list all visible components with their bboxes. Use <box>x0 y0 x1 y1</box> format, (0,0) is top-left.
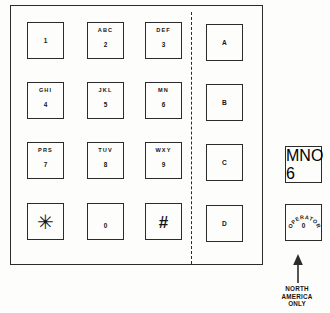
callout-note-line2: AMERICA <box>266 293 328 301</box>
asterisk-icon: ✳ <box>28 211 63 233</box>
key-6[interactable]: MN 6 <box>145 82 182 119</box>
key-c[interactable]: C <box>206 144 243 181</box>
key-b[interactable]: B <box>206 84 243 121</box>
callout-note: NORTH AMERICA ONLY <box>266 285 328 308</box>
key-6-digit: 6 <box>146 102 181 108</box>
variant-key-mno-letters: MNO <box>286 147 321 165</box>
key-8-letters: TUV <box>88 148 123 154</box>
key-star[interactable]: ✳ <box>27 203 64 240</box>
callout-note-line1: NORTH <box>266 285 328 293</box>
variant-key-mno-digit: 6 <box>286 165 321 183</box>
key-hash[interactable]: # <box>145 203 182 240</box>
callout-note-line3: ONLY <box>266 300 328 308</box>
variant-key-operator-0[interactable]: OPERATOR 0 <box>285 204 322 241</box>
dashed-divider <box>191 12 192 264</box>
keypad-diagram: 1 ABC 2 DEF 3 A GHI 4 JKL 5 MN 6 B PRS 7… <box>0 0 330 313</box>
key-5-letters: JKL <box>88 88 123 94</box>
key-0[interactable]: 0 <box>87 203 124 240</box>
key-4-letters: GHI <box>28 88 63 94</box>
key-a[interactable]: A <box>206 24 243 61</box>
key-d[interactable]: D <box>206 205 243 242</box>
key-8[interactable]: TUV 8 <box>87 142 124 179</box>
hash-icon: # <box>146 212 181 234</box>
key-d-label: D <box>207 221 242 228</box>
variant-key-mno-6[interactable]: MNO 6 <box>285 146 322 183</box>
key-9-digit: 9 <box>146 162 181 168</box>
key-7-digit: 7 <box>28 162 63 168</box>
key-3[interactable]: DEF 3 <box>145 22 182 59</box>
key-2[interactable]: ABC 2 <box>87 22 124 59</box>
key-9[interactable]: WXY 9 <box>145 142 182 179</box>
key-2-letters: ABC <box>88 28 123 34</box>
key-b-label: B <box>207 100 242 107</box>
key-7[interactable]: PRS 7 <box>27 142 64 179</box>
key-5-digit: 5 <box>88 102 123 108</box>
key-a-label: A <box>207 40 242 47</box>
key-4[interactable]: GHI 4 <box>27 82 64 119</box>
key-3-digit: 3 <box>146 42 181 48</box>
key-3-letters: DEF <box>146 28 181 34</box>
key-c-label: C <box>207 160 242 167</box>
key-1-digit: 1 <box>28 38 63 44</box>
key-0-digit: 0 <box>88 223 123 229</box>
callout-arrow-icon <box>292 254 304 283</box>
key-8-digit: 8 <box>88 162 123 168</box>
variant-key-operator-digit: 0 <box>286 223 321 229</box>
key-5[interactable]: JKL 5 <box>87 82 124 119</box>
key-4-digit: 4 <box>28 102 63 108</box>
key-7-letters: PRS <box>28 148 63 154</box>
key-6-letters: MN <box>146 88 181 94</box>
key-2-digit: 2 <box>88 42 123 48</box>
key-9-letters: WXY <box>146 148 181 154</box>
key-1[interactable]: 1 <box>27 22 64 59</box>
